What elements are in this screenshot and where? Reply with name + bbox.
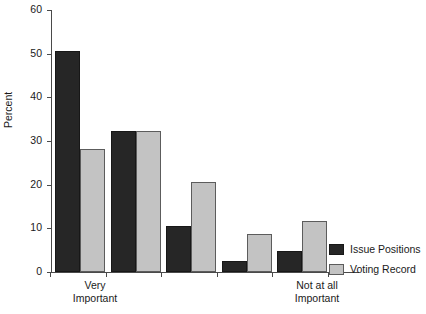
dark-swatch xyxy=(329,244,344,255)
x-tick-mark xyxy=(217,272,218,277)
bar xyxy=(136,131,161,272)
x-axis-label: Not at all Important xyxy=(274,279,360,304)
chart-legend: Issue PositionsVoting Record xyxy=(329,240,421,280)
x-tick-mark xyxy=(106,272,107,277)
legend-label: Voting Record xyxy=(350,263,416,275)
bar xyxy=(302,221,327,272)
y-tick-label: 0 xyxy=(36,265,42,278)
y-tick-label: 40 xyxy=(30,90,42,103)
bar xyxy=(191,182,216,272)
bar xyxy=(222,261,247,272)
bar xyxy=(277,251,302,272)
bar xyxy=(80,149,105,272)
y-tick-label: 60 xyxy=(30,3,42,16)
legend-item: Voting Record xyxy=(329,260,421,278)
light-swatch xyxy=(329,264,344,275)
y-tick-label: 30 xyxy=(30,134,42,147)
bar xyxy=(55,51,80,272)
y-tick-label: 10 xyxy=(30,221,42,234)
x-axis-label: Very Important xyxy=(52,279,138,304)
x-tick-mark xyxy=(272,272,273,277)
bar-chart: Percent 0102030405060 Very ImportantNot … xyxy=(0,0,426,314)
legend-item: Issue Positions xyxy=(329,240,421,258)
bars-layer xyxy=(51,10,359,272)
bar xyxy=(166,226,191,272)
y-tick-label: 20 xyxy=(30,178,42,191)
x-tick-mark xyxy=(161,272,162,277)
y-tick-label: 50 xyxy=(30,47,42,60)
bar xyxy=(111,131,136,272)
x-tick-mark xyxy=(50,272,51,277)
legend-label: Issue Positions xyxy=(350,243,421,255)
y-axis-title: Percent xyxy=(2,92,14,128)
x-axis-line xyxy=(51,272,359,273)
bar xyxy=(247,234,272,272)
